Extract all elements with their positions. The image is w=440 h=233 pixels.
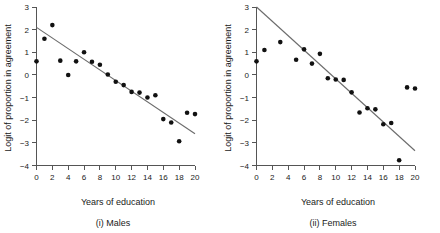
data-point <box>193 112 198 117</box>
data-point <box>373 107 378 112</box>
data-point <box>357 110 362 115</box>
data-point <box>310 61 315 66</box>
data-point <box>326 76 331 81</box>
y-tick-label: 1 <box>25 48 30 57</box>
y-tick-label: 1 <box>245 48 250 57</box>
x-tick-label: 12 <box>127 173 136 182</box>
data-point <box>185 110 190 115</box>
data-point <box>153 93 158 98</box>
data-point <box>294 57 299 62</box>
y-axis-title-males: Logit of proportion in agreement <box>3 24 13 152</box>
data-point <box>129 90 134 95</box>
points-group-males <box>34 23 197 144</box>
two-panel-scatter-figure: 3210−1−2−3−4 02468101214161820 Years of … <box>0 0 440 233</box>
panel-females: 3210−1−2−3−4 02468101214161820 Years of … <box>220 0 440 233</box>
data-point <box>121 83 126 88</box>
data-point <box>50 23 55 28</box>
x-tick-label: 18 <box>395 173 404 182</box>
data-point <box>98 62 103 67</box>
data-point <box>177 139 182 144</box>
data-point <box>145 95 150 100</box>
x-tick-label: 8 <box>318 173 323 182</box>
data-point <box>66 73 71 78</box>
data-point <box>42 36 47 41</box>
x-tick-label: 2 <box>50 173 55 182</box>
y-tick-label: 2 <box>25 26 30 35</box>
panel-males: 3210−1−2−3−4 02468101214161820 Years of … <box>0 0 220 233</box>
data-point <box>333 77 338 82</box>
x-tick-label: 10 <box>111 173 120 182</box>
y-axis-title-females: Logit of proportion in agreement <box>223 24 233 152</box>
x-tick-label: 20 <box>411 173 420 182</box>
y-tick-label: −3 <box>240 139 250 148</box>
data-point <box>254 59 259 64</box>
data-point <box>262 48 267 53</box>
x-axis-title-males: Years of education <box>81 197 155 207</box>
data-point <box>58 58 63 63</box>
points-group-females <box>254 40 417 163</box>
x-tick-label: 6 <box>82 173 87 182</box>
panel-caption-females: (ii) Females <box>309 218 357 228</box>
x-tick-label: 4 <box>286 173 291 182</box>
y-tick-label: −3 <box>20 139 30 148</box>
data-point <box>318 52 323 57</box>
y-tick-label: −1 <box>20 94 30 103</box>
y-tick-label: −1 <box>240 94 250 103</box>
y-tick-label: −2 <box>240 116 250 125</box>
data-point <box>341 78 346 83</box>
x-tick-label: 10 <box>331 173 340 182</box>
x-tick-label: 0 <box>254 173 259 182</box>
y-tick-label: 0 <box>25 71 30 80</box>
y-tick-label: −4 <box>240 162 250 171</box>
x-ticks-females: 02468101214161820 <box>254 166 420 183</box>
y-tick-label: 3 <box>25 3 30 12</box>
data-point <box>381 122 386 127</box>
plot-females: 3210−1−2−3−4 02468101214161820 Years of … <box>220 0 440 233</box>
x-tick-label: 14 <box>363 173 372 182</box>
data-point <box>413 86 418 91</box>
x-tick-label: 20 <box>191 173 200 182</box>
data-point <box>161 117 166 122</box>
x-ticks-males: 02468101214161820 <box>34 166 200 183</box>
data-point <box>365 106 370 111</box>
axes-females <box>257 7 416 166</box>
data-point <box>74 59 79 64</box>
y-tick-label: −2 <box>20 116 30 125</box>
data-point <box>82 50 87 55</box>
panel-caption-males: (i) Males <box>96 218 131 228</box>
data-point <box>90 59 95 64</box>
x-tick-label: 0 <box>34 173 39 182</box>
x-tick-label: 12 <box>347 173 356 182</box>
x-tick-label: 16 <box>159 173 168 182</box>
y-tick-label: −4 <box>20 162 30 171</box>
x-tick-label: 8 <box>98 173 103 182</box>
x-axis-title-females: Years of education <box>301 197 375 207</box>
data-point <box>389 121 394 126</box>
x-tick-label: 2 <box>270 173 275 182</box>
y-tick-label: 2 <box>245 26 250 35</box>
x-tick-label: 14 <box>143 173 152 182</box>
x-tick-label: 6 <box>302 173 307 182</box>
data-point <box>349 90 354 95</box>
data-point <box>137 90 142 95</box>
x-tick-label: 18 <box>175 173 184 182</box>
data-point <box>278 40 283 45</box>
y-tick-label: 0 <box>245 71 250 80</box>
data-point <box>106 72 111 77</box>
data-point <box>34 59 39 64</box>
y-tick-label: 3 <box>245 3 250 12</box>
data-point <box>169 120 174 125</box>
data-point <box>113 79 118 84</box>
y-ticks-females: 3210−1−2−3−4 <box>240 3 257 171</box>
y-ticks-males: 3210−1−2−3−4 <box>20 3 37 171</box>
x-tick-label: 4 <box>66 173 71 182</box>
axes-males <box>37 7 196 166</box>
plot-males: 3210−1−2−3−4 02468101214161820 Years of … <box>0 0 220 233</box>
data-point <box>397 158 402 163</box>
data-point <box>405 85 410 90</box>
data-point <box>302 47 307 52</box>
x-tick-label: 16 <box>379 173 388 182</box>
